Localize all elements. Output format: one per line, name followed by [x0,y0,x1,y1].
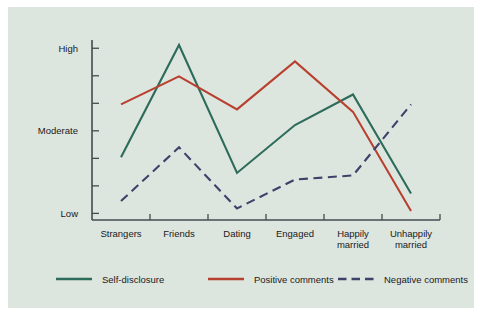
y-axis-tick-labels: HighModerateLow [38,43,78,219]
legend-label-self-disclosure: Self-disclosure [102,274,164,285]
legend-label-positive-comments: Positive comments [254,274,334,285]
figure-container: HighModerateLow StrangersFriendsDatingEn… [0,0,482,316]
line-chart: HighModerateLow StrangersFriendsDatingEn… [8,7,474,308]
x-axis-label-unhappily-married: married [395,239,427,250]
chart-panel: HighModerateLow StrangersFriendsDatingEn… [8,7,474,308]
x-axis-label-friends: Friends [163,228,195,239]
series-line-self-disclosure [121,45,411,194]
y-axis-label-high: High [58,43,78,54]
y-axis-ticks [92,48,99,213]
x-axis-tick-labels: StrangersFriendsDatingEngagedHappilymarr… [100,228,432,250]
x-axis-label-dating: Dating [223,228,250,239]
chart-legend: Self-disclosurePositive commentsNegative… [56,274,468,285]
x-axis-label-unhappily-married: Unhappily [390,228,432,239]
x-axis-label-happily-married: Happily [337,228,369,239]
series-line-positive-comments [121,61,411,210]
x-axis-label-engaged: Engaged [276,228,314,239]
y-axis-label-low: Low [61,208,79,219]
legend-label-negative-comments: Negative comments [384,274,468,285]
y-axis: HighModerateLow [38,40,99,220]
x-axis-label-strangers: Strangers [100,228,141,239]
x-axis-ticks [150,214,440,220]
x-axis: StrangersFriendsDatingEngagedHappilymarr… [92,214,440,250]
y-axis-label-moderate: Moderate [38,125,78,136]
data-series-group [121,45,411,211]
x-axis-label-happily-married: married [337,239,369,250]
